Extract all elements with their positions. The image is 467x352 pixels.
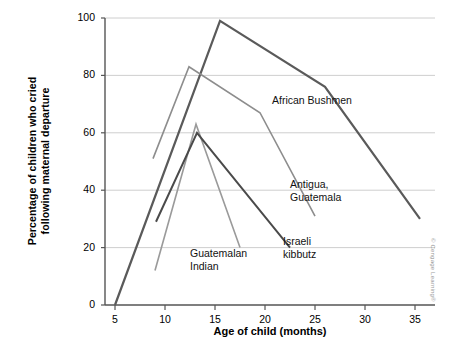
x-tick-label: 30 <box>353 313 377 325</box>
x-tick-label: 5 <box>103 313 127 325</box>
y-tick-label: 0 <box>67 298 95 310</box>
series-label-guatemalan-indian: Guatemalan Indian <box>190 247 247 272</box>
y-tick-label: 40 <box>67 183 95 195</box>
x-tick-label: 10 <box>153 313 177 325</box>
y-tick-label: 100 <box>67 11 95 23</box>
copyright-credit: © Cengage Learning® <box>430 238 436 338</box>
y-tick-label: 80 <box>67 68 95 80</box>
chart-figure: Percentage of children who cried followi… <box>0 0 467 352</box>
series-label-african-bushmen: African Bushmen <box>272 94 352 107</box>
series-label-israeli-kibbutz: Israeli kibbutz <box>283 235 316 260</box>
x-tick-label: 25 <box>303 313 327 325</box>
x-axis-label: Age of child (months) <box>105 325 435 337</box>
y-tick-label: 60 <box>67 126 95 138</box>
y-axis-label: Percentage of children who cried followi… <box>26 56 52 266</box>
x-tick-label: 35 <box>403 313 427 325</box>
y-tick-label: 20 <box>67 241 95 253</box>
series-label-antigua-guatemala: Antigua, Guatemala <box>290 178 341 203</box>
x-tick-label: 20 <box>253 313 277 325</box>
x-tick-label: 15 <box>203 313 227 325</box>
series-line-african-bushmen <box>115 21 420 305</box>
